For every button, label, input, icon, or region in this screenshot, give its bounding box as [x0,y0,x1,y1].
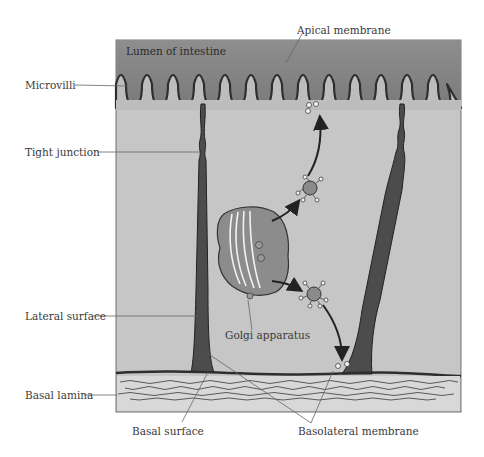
label-basal-lamina: Basal lamina [25,389,93,401]
panel-label-lumen: Lumen of intestine [126,45,226,57]
label-golgi-apparatus: Golgi apparatus [225,329,310,341]
label-basolateral-membrane: Basolateral membrane [298,425,419,437]
label-lateral-surface: Lateral surface [25,310,106,322]
label-apical-membrane: Apical membrane [297,24,391,36]
label-microvilli: Microvilli [25,79,76,91]
label-basal-surface: Basal surface [132,425,204,437]
label-tight-junction: Tight junction [25,146,100,158]
